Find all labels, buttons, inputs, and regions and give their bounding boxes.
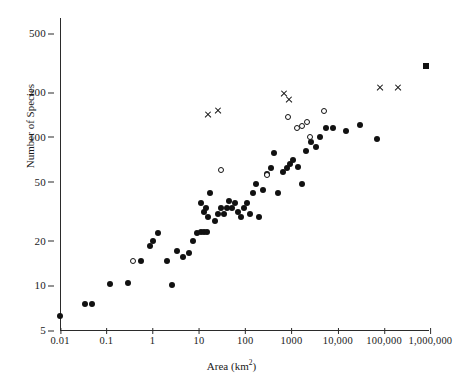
y-tick-label: 500 [0,28,46,39]
data-point-filled-circle [308,139,314,145]
data-point-open-circle [218,167,224,173]
data-point-cross [376,83,384,91]
x-tick-mark [153,328,154,334]
data-point-cross [214,107,222,115]
y-tick-label: 50 [0,176,46,187]
data-point-filled-circle [180,254,186,260]
data-point-filled-circle [290,157,296,163]
x-tick-mark [106,328,107,334]
data-point-filled-circle [221,211,227,217]
y-tick-label: 200 [0,87,46,98]
y-tick-mark [48,182,54,183]
data-point-filled-circle [232,200,238,206]
data-point-filled-circle [271,150,277,156]
plot-area [60,18,428,330]
data-point-filled-circle [250,190,256,196]
data-point-open-circle [321,108,327,114]
x-tick-label: 0.1 [99,336,113,347]
data-point-filled-circle [82,301,88,307]
data-point-cross [394,83,402,91]
x-axis-label: Area (km2) [0,358,463,372]
data-point-open-circle [304,119,310,125]
x-tick-label: 10 [193,336,204,347]
data-point-filled-circle [212,218,218,224]
data-point-filled-circle [174,248,180,254]
data-point-filled-circle [89,301,95,307]
data-point-filled-circle [303,148,309,154]
data-point-filled-circle [247,211,253,217]
x-tick-label: 1 [150,336,155,347]
data-point-filled-circle [229,205,235,211]
data-point-cross [285,96,293,104]
data-point-filled-circle [256,214,262,220]
x-tick-mark [60,328,61,334]
y-tick-mark [48,137,54,138]
data-point-open-circle [307,134,313,140]
y-tick-mark [48,330,54,331]
data-point-filled-circle [244,200,250,206]
data-point-filled-circle [317,134,323,140]
x-tick-mark [245,328,246,334]
data-point-filled-circle [260,187,266,193]
x-tick-label: 100 [237,336,253,347]
data-point-filled-circle [205,214,211,220]
data-point-filled-circle [204,229,210,235]
data-point-filled-circle [357,122,363,128]
data-point-filled-circle [343,128,349,134]
data-point-filled-square [423,63,429,69]
data-point-filled-circle [313,144,319,150]
data-point-filled-circle [186,250,192,256]
data-point-filled-circle [138,258,144,264]
x-tick-label: 100,000 [366,336,402,347]
y-tick-label: 5 [0,325,46,336]
y-tick-label: 100 [0,131,46,142]
data-point-filled-circle [253,181,259,187]
data-point-filled-circle [57,313,63,319]
data-point-filled-circle [164,258,170,264]
x-tick-mark [384,328,385,334]
data-point-open-circle [264,172,270,178]
data-point-open-circle [285,114,291,120]
data-point-filled-circle [299,181,305,187]
data-point-filled-circle [107,281,113,287]
y-tick-label: 10 [0,280,46,291]
y-tick-mark [48,92,54,93]
data-point-filled-circle [241,205,247,211]
data-point-filled-circle [190,238,196,244]
data-point-open-circle [130,258,136,264]
data-point-filled-circle [295,164,301,170]
data-point-filled-circle [323,125,329,131]
y-tick-mark [48,285,54,286]
x-tick-mark [199,328,200,334]
data-point-filled-circle [275,190,281,196]
data-point-cross [204,111,212,119]
y-tick-mark [48,33,54,34]
y-tick-label: 20 [0,235,46,246]
data-point-filled-circle [169,282,175,288]
data-point-filled-circle [125,280,131,286]
data-point-filled-circle [330,125,336,131]
x-tick-label: 10,000 [323,336,353,347]
x-tick-mark [430,328,431,334]
data-point-filled-circle [238,214,244,220]
x-axis-ticks: 0.010.1110100100010,000100,0001,000,000 [60,336,429,352]
x-tick-label: 1,000,000 [408,336,452,347]
x-tick-label: 0.01 [50,336,69,347]
data-point-filled-circle [374,136,380,142]
x-tick-label: 1000 [281,336,303,347]
data-point-filled-circle [203,205,209,211]
data-point-filled-circle [150,238,156,244]
y-axis-label: Number of Species [24,36,36,216]
data-point-filled-circle [268,165,274,171]
data-point-filled-circle [207,190,213,196]
y-tick-mark [48,241,54,242]
x-tick-mark [338,328,339,334]
x-tick-mark [292,328,293,334]
scatter-plot-figure: 5002001005020105 0.010.1110100100010,000… [0,0,463,380]
data-point-filled-circle [198,200,204,206]
data-point-filled-circle [155,230,161,236]
